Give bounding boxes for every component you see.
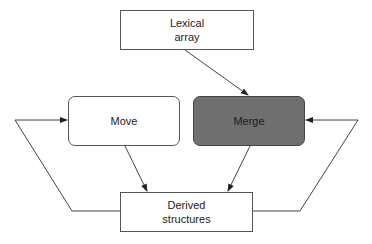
lexical-array-node: Lexical array — [120, 10, 254, 50]
edge-move-to-derived — [125, 146, 147, 191]
derived-structures-node: Derived structures — [120, 192, 253, 232]
merge-label: Merge — [233, 114, 264, 128]
derived-label-line1: Derived — [162, 198, 210, 212]
edge-merge-to-derived — [228, 146, 250, 191]
lexical-array-label-line2: array — [170, 30, 204, 44]
move-node: Move — [68, 96, 180, 146]
lexical-array-label-line1: Lexical — [170, 16, 204, 30]
edge-lexical-to-merge — [185, 50, 248, 95]
derived-label-line2: structures — [162, 212, 210, 226]
merge-node: Merge — [193, 96, 305, 146]
move-label: Move — [111, 114, 138, 128]
